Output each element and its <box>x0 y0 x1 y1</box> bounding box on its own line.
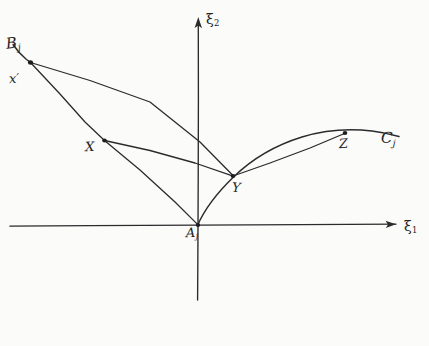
label-Aj-letter: A <box>186 225 196 240</box>
label-point-Y: Y <box>232 181 241 194</box>
label-X-letter: X <box>85 139 95 154</box>
label-Z-letter: Z <box>338 136 348 152</box>
horizontal-axis-line <box>10 224 396 226</box>
label-point-Z: Z <box>339 137 349 151</box>
vertex-dot-Z <box>343 131 348 135</box>
vertex-dot-X <box>102 139 107 143</box>
label-xi2-subscript: 2 <box>214 18 219 28</box>
label-curve-Cj: Cj <box>381 131 397 148</box>
vertex-dot-group <box>28 60 347 227</box>
label-point-x-prime: x′ <box>9 72 20 86</box>
vertical-axis-line <box>198 24 199 300</box>
label-axis-xi1: ξ1 <box>404 219 417 235</box>
label-Cj-subscript: j <box>393 137 397 148</box>
label-Bj-letter: B <box>5 34 18 53</box>
vertex-dot-Y <box>231 174 236 178</box>
segment-group <box>31 63 345 225</box>
axis-group <box>10 17 396 300</box>
label-xi1-subscript: 1 <box>412 225 417 235</box>
curve-Cj <box>198 130 400 226</box>
label-point-Aj: Aj <box>186 226 199 242</box>
segment-X-to-Y <box>105 141 233 176</box>
segment-X-to-A <box>105 141 198 225</box>
segment-xprime-to-Y <box>31 63 234 176</box>
label-point-X: X <box>85 140 95 153</box>
diagram-canvas: Bj x′ X Y Z Aj Cj ξ2 ξ1 <box>0 0 429 346</box>
label-Aj-subscript: j <box>196 232 199 241</box>
vertex-dot-xprime <box>28 60 33 64</box>
label-curve-Bj: Bj <box>5 35 21 53</box>
label-Bj-subscript: j <box>17 41 21 52</box>
label-Cj-letter: C <box>381 129 394 148</box>
segment-Y-to-Z <box>233 134 345 177</box>
label-axis-xi2: ξ2 <box>206 12 219 28</box>
label-xi1-letter: ξ <box>404 218 412 234</box>
diagram-svg <box>0 0 429 346</box>
label-Y-letter: Y <box>232 180 241 195</box>
label-xi2-letter: ξ <box>206 11 214 27</box>
